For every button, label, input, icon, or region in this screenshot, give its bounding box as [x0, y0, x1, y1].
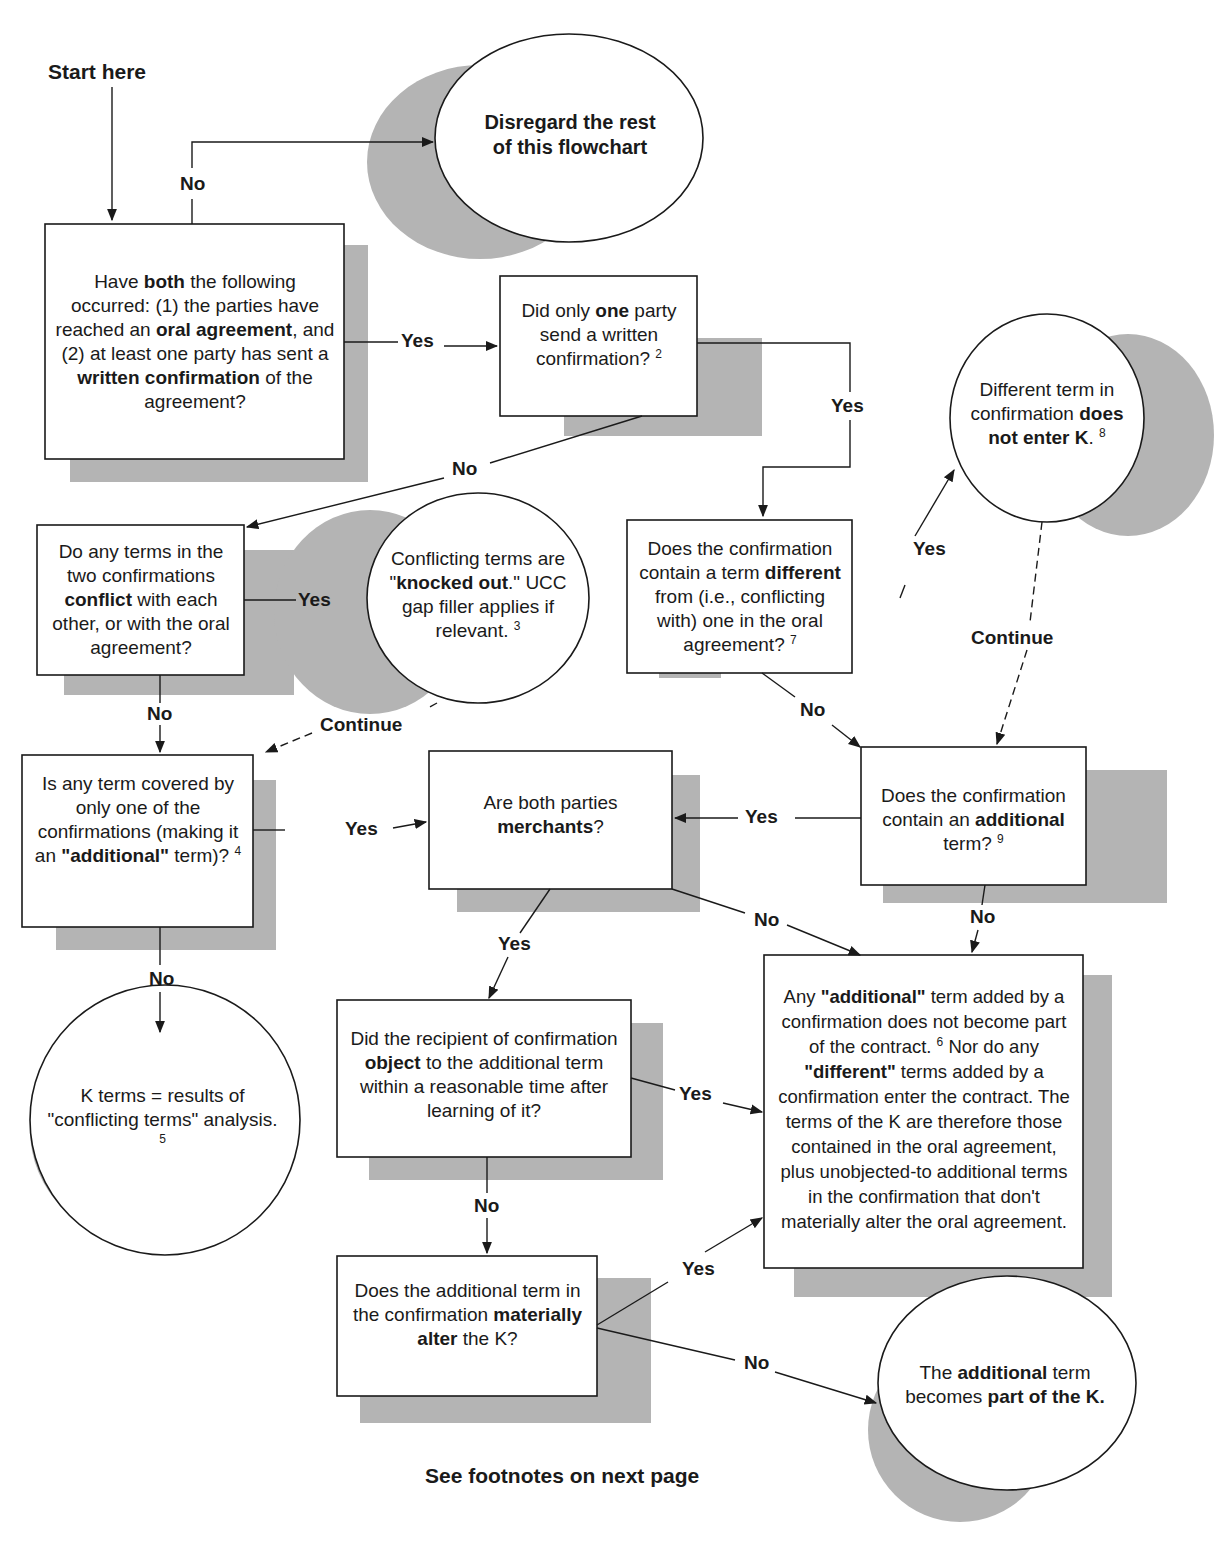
node-q-term-different: Does the confirmation contain a term dif… [633, 527, 847, 667]
start-label: Start here [48, 60, 146, 84]
node-q-contains-additional: Does the confirmation contain an additio… [866, 775, 1081, 865]
node-end-knocked-out: Conflicting terms are "knocked out." UCC… [382, 525, 574, 665]
edge-label-q1-no: No [178, 173, 207, 195]
node-label: Does the additional term in the confirma… [345, 1279, 590, 1351]
node-label: Are both parties merchants? [434, 791, 667, 839]
edge-label-conflict-no: No [145, 703, 174, 725]
edge-label-material-no: No [742, 1352, 771, 1374]
footer-note: See footnotes on next page [425, 1464, 699, 1488]
node-q-recipient-object: Did the recipient of confirmation object… [345, 1008, 623, 1142]
node-q-terms-conflict: Do any terms in the two confirmations co… [42, 530, 240, 670]
edge-label-different-yes: Yes [911, 538, 948, 560]
edge-label-knocked-continue: Continue [318, 714, 404, 736]
node-label: Did the recipient of confirmation object… [345, 1027, 623, 1123]
node-q-both-merchants: Are both parties merchants? [434, 785, 667, 845]
edge-label-material-yes: Yes [680, 1258, 717, 1280]
node-label: Does the confirmation contain a term dif… [633, 537, 847, 657]
node-end-k-terms-conflicting: K terms = results of "conflicting terms"… [45, 1070, 280, 1170]
node-label: K terms = results of "conflicting terms"… [45, 1084, 280, 1156]
node-label: The additional term becomes part of the … [905, 1361, 1105, 1409]
node-label: Any "additional" term added by a confirm… [774, 984, 1074, 1234]
node-q-only-one-party: Did only one party send a written confir… [505, 290, 693, 380]
edge-label-contains-additional-no: No [968, 906, 997, 928]
node-end-disregard: Disregard the rest of this flowchart [480, 80, 660, 190]
node-label: Do any terms in the two confirmations co… [42, 540, 240, 660]
edge-label-contains-additional-yes: Yes [743, 806, 780, 828]
edge-label-object-yes: Yes [677, 1083, 714, 1105]
node-end-different-not-enter: Different term in confirmation does not … [968, 350, 1126, 478]
edge-label-conflict-yes: Yes [296, 589, 333, 611]
edge-label-object-no: No [472, 1195, 501, 1217]
node-label: Different term in confirmation does not … [968, 378, 1126, 450]
edge-label-q1-yes: Yes [399, 330, 436, 352]
edge-label-additional-only-yes: Yes [343, 818, 380, 840]
edge-label-only-one-yes: Yes [829, 395, 866, 417]
node-label: Conflicting terms are "knocked out." UCC… [382, 547, 574, 643]
node-label: Is any term covered by only one of the c… [28, 772, 248, 868]
node-q-materially-alter: Does the additional term in the confirma… [345, 1270, 590, 1360]
node-end-becomes-part: The additional term becomes part of the … [905, 1340, 1105, 1430]
edge-label-merchants-no: No [752, 909, 781, 931]
node-q-additional-only-one: Is any term covered by only one of the c… [28, 760, 248, 880]
edge-label-merchants-yes: Yes [496, 933, 533, 955]
edge-label-different-no: No [798, 699, 827, 721]
node-label: Does the confirmation contain an additio… [866, 784, 1081, 856]
node-label: Disregard the rest of this flowchart [480, 110, 660, 160]
node-label: Did only one party send a written confir… [505, 299, 693, 371]
edge-label-different-continue: Continue [969, 627, 1055, 649]
node-end-additional-not-part: Any "additional" term added by a confirm… [774, 978, 1074, 1240]
node-label: Have both the following occurred: (1) th… [55, 270, 335, 414]
node-q-oral-written: Have both the following occurred: (1) th… [55, 236, 335, 448]
edge-label-additional-only-no: No [147, 968, 176, 990]
edge-label-only-one-no: No [450, 458, 479, 480]
